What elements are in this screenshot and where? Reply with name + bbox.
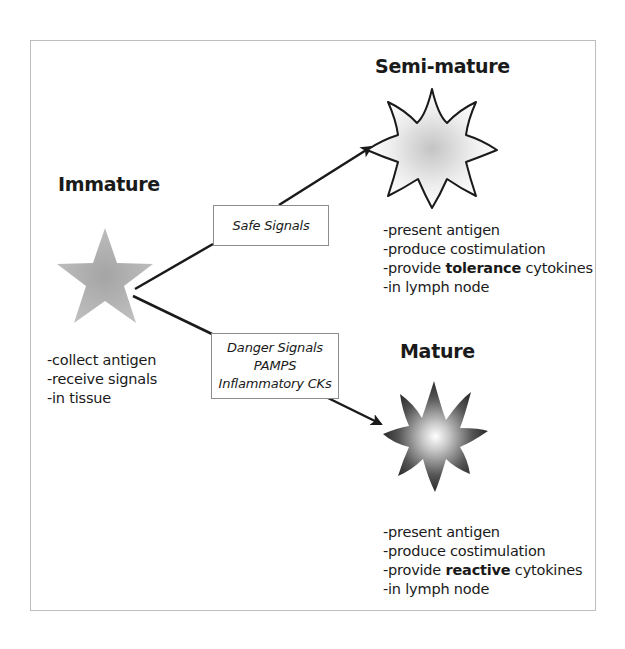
safe-signals-box: Safe Signals xyxy=(213,205,329,246)
list-item: -in lymph node xyxy=(383,580,582,599)
list-item: -receive signals xyxy=(47,370,157,389)
semi-mature-properties: -present antigen -produce costimulation … xyxy=(383,221,593,297)
stage-title-mature: Mature xyxy=(400,340,475,362)
signal-label: Inflammatory CKs xyxy=(212,375,338,393)
stage-title-immature: Immature xyxy=(58,173,160,195)
list-item: -in tissue xyxy=(47,389,157,408)
arrow-danger-to-mature xyxy=(328,398,381,424)
list-item: -provide tolerance cytokines xyxy=(383,259,593,278)
five-point-star-icon xyxy=(57,228,153,323)
list-item: -present antigen xyxy=(383,221,593,240)
mature-properties: -present antigen -produce costimulation … xyxy=(383,523,582,599)
outlined-ten-point-star-icon xyxy=(367,89,497,208)
list-item: -collect antigen xyxy=(47,351,157,370)
emphasis: tolerance xyxy=(446,260,522,276)
stage-title-semi-mature: Semi-mature xyxy=(375,55,510,77)
immature-properties: -collect antigen -receive signals -in ti… xyxy=(47,351,157,408)
danger-signals-box: Danger Signals PAMPS Inflammatory CKs xyxy=(211,333,339,399)
list-item: -produce costimulation xyxy=(383,542,582,561)
list-item: -provide reactive cytokines xyxy=(383,561,582,580)
list-item: -produce costimulation xyxy=(383,240,593,259)
signal-label: Safe Signals xyxy=(214,217,328,235)
line-immature-to-danger-box xyxy=(133,296,212,334)
signal-label: PAMPS xyxy=(212,357,338,375)
arrow-safe-to-semi-mature xyxy=(279,147,371,205)
signal-label: Danger Signals xyxy=(212,339,338,357)
emphasis: reactive xyxy=(446,562,511,578)
list-item: -present antigen xyxy=(383,523,582,542)
gradient-ten-point-star-icon xyxy=(383,381,488,492)
list-item: -in lymph node xyxy=(383,278,593,297)
